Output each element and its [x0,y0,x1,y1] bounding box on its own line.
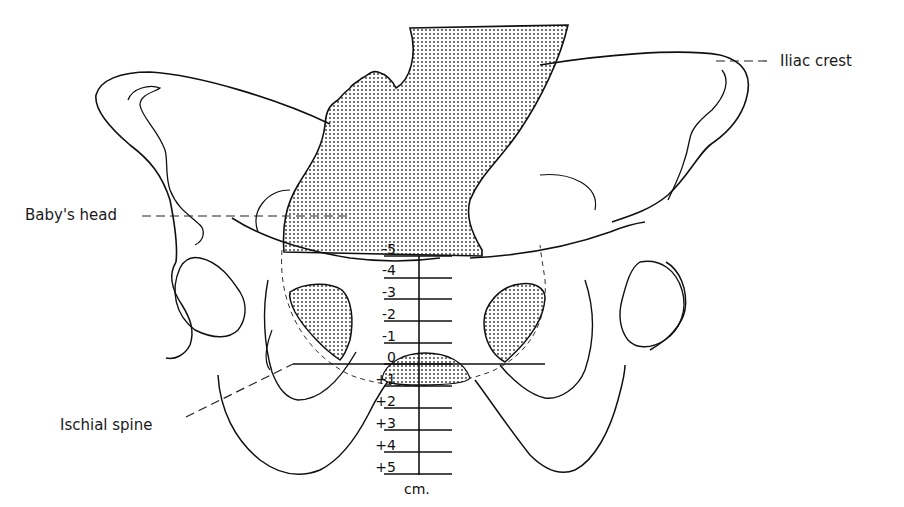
iliac-crest-label: Iliac crest [780,54,852,69]
station-label: -4 [368,263,396,277]
right-pelvic-brim [470,222,645,258]
right-ischial-spine-shape [484,284,545,362]
station-label: -5 [368,242,396,256]
left-obturator-region [175,257,245,336]
right-acetabulum [540,175,596,210]
station-label: -2 [368,307,396,321]
station-label: 0 [368,350,396,364]
station-label: +4 [368,438,396,452]
station-label: +5 [368,460,396,474]
pelvis-diagram: Iliac crest Baby's head Ischial spine -5… [0,0,904,507]
right-ilium [540,52,748,222]
right-obturator-region [620,261,684,347]
ischial-spine-label: Ischial spine [60,418,153,433]
right-iliac-wing-inner [668,70,726,200]
station-label: +3 [368,416,396,430]
station-label: +2 [368,394,396,408]
station-label: -1 [368,329,396,343]
station-label: +1 [368,372,396,386]
station-label: -3 [368,285,396,299]
babys-head-shape [284,25,568,256]
ischial-spine-leader [186,364,293,417]
right-lower-ilium [650,262,686,350]
left-ischial-spine-shape [290,284,352,360]
left-pubic-inner [266,330,272,370]
right-ischium [475,365,625,472]
babys-head-label: Baby's head [25,208,117,223]
scale-unit-label: cm. [404,482,430,496]
left-iliac-wing-inner [128,87,203,246]
